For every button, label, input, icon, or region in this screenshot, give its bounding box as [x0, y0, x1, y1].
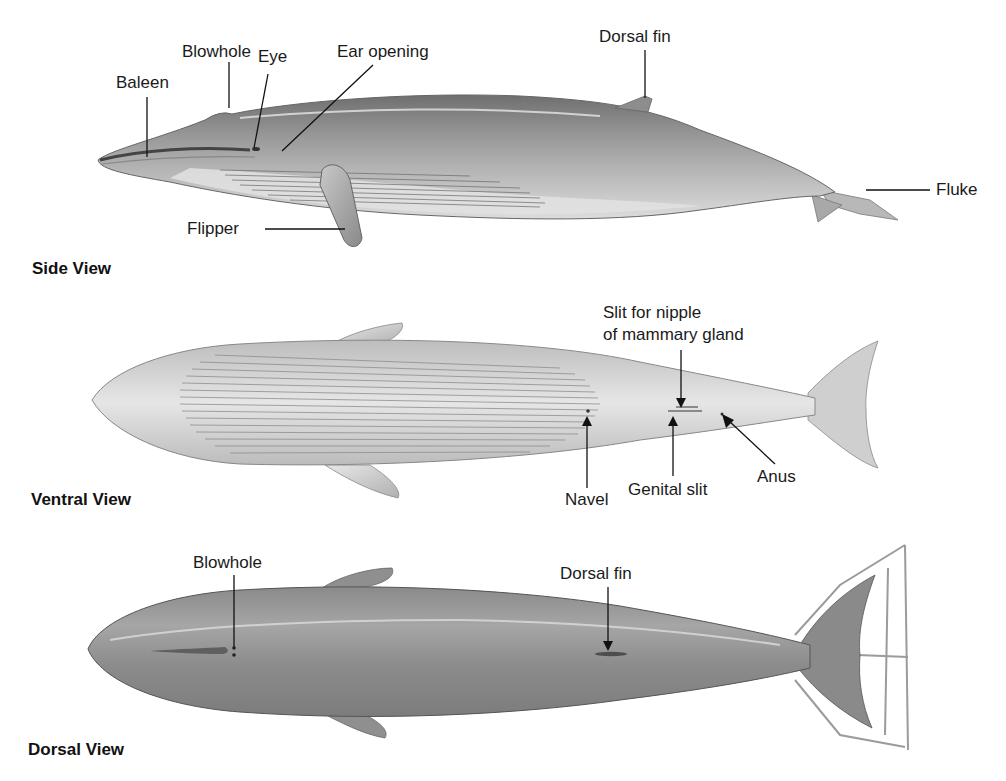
- label-baleen: Baleen: [116, 73, 169, 93]
- title-dorsal-view: Dorsal View: [28, 740, 124, 760]
- label-flipper: Flipper: [187, 219, 239, 239]
- label-genital-slit: Genital slit: [628, 480, 707, 500]
- label-dorsal-fin-side: Dorsal fin: [599, 27, 671, 47]
- label-fluke: Fluke: [936, 180, 978, 200]
- label-blowhole-side: Blowhole: [182, 42, 251, 62]
- label-ear-opening: Ear opening: [337, 42, 429, 62]
- whale-illustrations: [0, 0, 1006, 781]
- label-anus: Anus: [757, 467, 796, 487]
- label-blowhole-dorsal: Blowhole: [193, 553, 262, 573]
- label-dorsal-fin-dorsal: Dorsal fin: [560, 564, 632, 584]
- label-nipple-slit-line1: Slit for nipple: [603, 303, 701, 323]
- label-nipple-slit-line2: of mammary gland: [603, 325, 744, 345]
- title-ventral-view: Ventral View: [31, 490, 131, 510]
- whale-anatomy-figure: Baleen Blowhole Eye Ear opening Dorsal f…: [0, 0, 1006, 781]
- label-eye: Eye: [258, 47, 287, 67]
- dorsal-view-whale: [88, 545, 908, 750]
- title-side-view: Side View: [32, 259, 111, 279]
- label-navel: Navel: [565, 490, 608, 510]
